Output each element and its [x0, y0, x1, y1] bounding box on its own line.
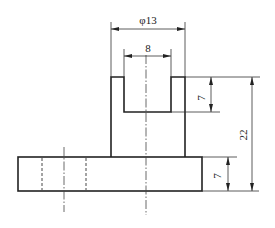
dimension-total-height: 22 — [237, 77, 254, 191]
label-inner-width: 8 — [145, 42, 151, 54]
upper-boss — [111, 77, 185, 157]
label-outer-diameter: φ13 — [139, 14, 157, 26]
dimension-inner-width: 8 — [124, 42, 171, 77]
label-base-thickness: 7 — [211, 173, 223, 179]
technical-drawing: φ13 8 7 22 7 — [0, 0, 275, 228]
label-total-height: 22 — [237, 130, 249, 141]
label-slot-depth: 7 — [195, 95, 207, 101]
base-plate — [18, 157, 202, 191]
dimension-slot-depth: 7 — [195, 77, 213, 112]
dimension-base-thickness: 7 — [211, 157, 230, 191]
